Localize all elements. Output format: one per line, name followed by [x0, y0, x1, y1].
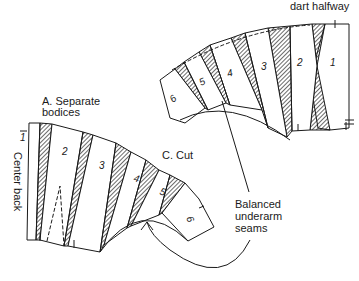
right-piece-3-number: 3 — [261, 61, 267, 72]
pattern-diagram: 1 2 3 4 5 6 1 2 3 — [0, 0, 359, 281]
seams-label-line2: underarm — [235, 210, 282, 222]
left-fan-diagram — [20, 123, 214, 252]
left-piece-2-number: 2 — [61, 146, 68, 157]
label-c: C. Cut — [162, 149, 193, 161]
seams-label-line3: seams — [235, 222, 267, 234]
seams-label-line1: Balanced — [235, 198, 281, 210]
label-a-line2: bodices — [42, 106, 80, 118]
right-fan-diagram — [160, 20, 354, 140]
left-piece-1-number: 1 — [20, 132, 26, 143]
top-caption: dart halfway — [290, 0, 349, 12]
center-back-label: Center back — [12, 152, 24, 211]
right-piece-1-number: 1 — [330, 57, 336, 68]
seams-leader-line — [222, 101, 249, 192]
left-piece-3-number: 3 — [99, 160, 105, 171]
right-piece-2-number: 2 — [296, 57, 303, 68]
